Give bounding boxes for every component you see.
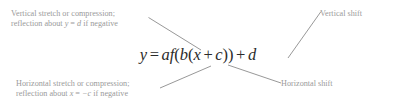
equation-variable-x: x [194, 45, 201, 64]
callout-horizontal-stretch-line2-post: if negative [91, 89, 128, 98]
callout-vertical-shift: Vertical shift [320, 9, 362, 19]
equation-close-f-paren: ) [228, 45, 234, 64]
leader-line-horizontal-stretch [160, 66, 211, 88]
callout-vertical-stretch-line1: Vertical stretch or compression; [11, 9, 118, 19]
callout-vertical-stretch-line2-eq: = [68, 19, 77, 28]
equation-constant-c: c [215, 45, 222, 64]
callout-vertical-stretch: Vertical stretch or compression; reflect… [11, 9, 118, 29]
callout-vertical-shift-line1: Vertical shift [320, 9, 362, 19]
equation-coefficient-b: b [180, 45, 188, 64]
equation-coefficient-a: a [162, 45, 170, 64]
leader-line-horizontal-shift [228, 65, 281, 83]
callout-horizontal-shift-line1: Horizontal shift [281, 79, 333, 89]
callout-vertical-stretch-line2-pre: reflection about [11, 19, 65, 28]
equation-formula: y=af(b(x+c))+d [0, 45, 396, 65]
callout-horizontal-shift: Horizontal shift [281, 79, 333, 89]
callout-vertical-stretch-line2-post: if negative [81, 19, 118, 28]
callout-horizontal-stretch-line2-eq: = [73, 89, 82, 98]
equation-constant-d: d [248, 45, 256, 64]
callout-horizontal-stretch: Horizontal stretch or compression; refle… [16, 79, 129, 99]
callout-horizontal-stretch-line1: Horizontal stretch or compression; [16, 79, 129, 89]
callout-horizontal-stretch-line2: reflection about x = −c if negative [16, 89, 129, 99]
callout-horizontal-stretch-line2-val: −c [82, 89, 91, 98]
callout-horizontal-stretch-line2-pre: reflection about [16, 89, 70, 98]
equation-plus-inner: + [201, 45, 215, 64]
equation-plus-outer: + [234, 45, 248, 64]
callout-vertical-stretch-line2: reflection about y = d if negative [11, 19, 118, 29]
function-transformation-diagram: Vertical stretch or compression; reflect… [0, 0, 396, 110]
equation-equals: = [147, 45, 161, 64]
